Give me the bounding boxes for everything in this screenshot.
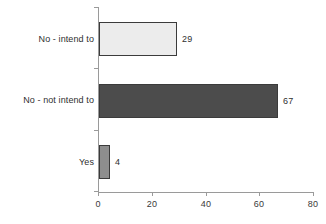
bar-no-not-intend-to [99, 84, 278, 118]
y-axis-tick [94, 68, 98, 69]
y-axis-tick [94, 130, 98, 131]
x-axis-tick [152, 192, 153, 196]
y-axis-tick [94, 7, 98, 8]
bar-chart: 0 20 40 60 80 No - intend to No - not in… [0, 0, 326, 224]
x-axis-tick [259, 192, 260, 196]
category-label-yes: Yes [79, 157, 94, 167]
x-tick-label-20: 20 [147, 199, 157, 209]
x-tick-label-0: 0 [95, 199, 100, 209]
x-axis-tick [313, 192, 314, 196]
x-tick-label-80: 80 [308, 199, 318, 209]
category-label-no-intend-to: No - intend to [39, 34, 94, 44]
value-label-no-not-intend-to: 67 [283, 96, 293, 106]
value-label-no-intend-to: 29 [182, 34, 192, 44]
value-label-yes: 4 [115, 157, 120, 167]
x-axis-tick [206, 192, 207, 196]
x-tick-label-40: 40 [201, 199, 211, 209]
x-axis-tick [98, 192, 99, 196]
bar-no-intend-to [99, 22, 177, 56]
x-tick-label-60: 60 [254, 199, 264, 209]
category-label-no-not-intend-to: No - not intend to [23, 95, 94, 105]
bar-yes [99, 145, 110, 179]
